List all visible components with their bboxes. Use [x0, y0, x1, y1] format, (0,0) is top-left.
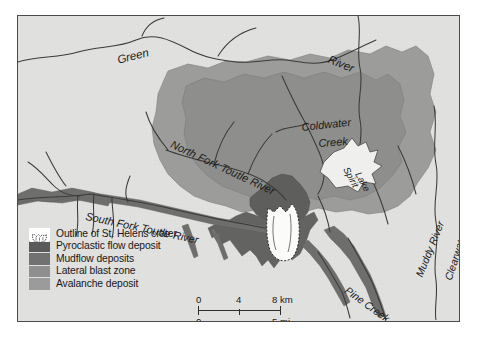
legend-item-mudflow-deposits: Mudflow deposits: [29, 253, 209, 265]
scale-bar-mi-labels: 0 5 mi: [196, 316, 304, 322]
scale-bar-km-labels: 0 4 8 km: [196, 294, 304, 306]
legend-item-crater-outline: Outline of St. Helens crater: [29, 228, 209, 240]
legend-label-avalanche-deposit: Avalanche deposit: [56, 278, 138, 290]
scale-mi-0: 0: [196, 316, 201, 322]
avalanche-deposit-swatch-icon: [29, 278, 50, 290]
legend-label-mudflow-deposits: Mudflow deposits: [56, 253, 134, 265]
scale-bar: 0 4 8 km 0 5 mi: [196, 294, 304, 322]
legend-item-pyroclastic-flow: Pyroclastic flow deposit: [29, 240, 209, 252]
scale-tick-end: [280, 306, 281, 315]
legend-item-lateral-blast-zone: Lateral blast zone: [29, 265, 209, 277]
lateral-blast-zone-swatch-icon: [29, 266, 50, 278]
pyroclastic-flow-swatch-icon: [29, 241, 50, 253]
legend-item-avalanche-deposit: Avalanche deposit: [29, 278, 209, 290]
scale-tick-start: [198, 306, 199, 315]
scale-bar-rule: [196, 306, 304, 315]
scale-km-8: 8 km: [272, 294, 293, 305]
scale-km-4: 4: [236, 294, 241, 305]
scale-km-0: 0: [196, 294, 201, 305]
st-helens-crater: [267, 204, 300, 261]
map-page: Green River Coldwater Creek North Fork T…: [0, 0, 477, 339]
mudflow-deposits-swatch-icon: [29, 253, 50, 265]
crater-outline-shape: [267, 204, 300, 261]
legend-label-pyroclastic-flow: Pyroclastic flow deposit: [56, 240, 161, 252]
crater-outline-swatch-icon: [29, 228, 50, 240]
scale-mi-5: 5 mi: [272, 316, 290, 322]
legend-label-crater-outline: Outline of St. Helens crater: [56, 228, 177, 240]
map-frame: Green River Coldwater Creek North Fork T…: [17, 15, 460, 322]
scale-tick-mid: [239, 309, 240, 315]
legend-label-lateral-blast-zone: Lateral blast zone: [56, 265, 135, 277]
legend: Outline of St. Helens crater Pyroclastic…: [29, 228, 209, 290]
